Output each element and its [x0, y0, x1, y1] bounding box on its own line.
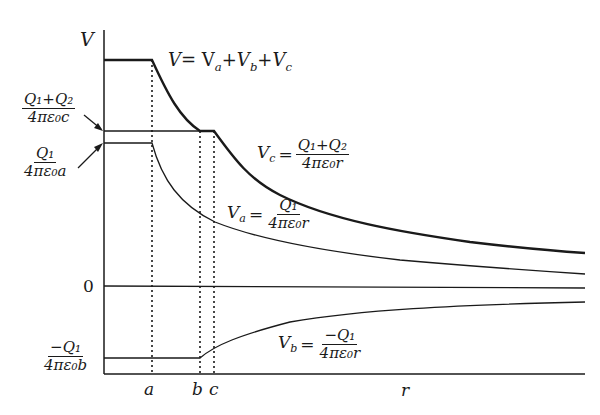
y-axis-label: V — [80, 30, 94, 49]
frac-den: 4πε₀c — [26, 109, 72, 125]
lhs: V — [227, 202, 239, 222]
tick-b: b — [192, 381, 203, 398]
lhs: V — [278, 332, 290, 352]
equals: = — [278, 146, 292, 163]
label-Va: Va = Q₁4πε₀r — [227, 198, 311, 231]
sub: c — [269, 153, 275, 166]
tick-a: a — [144, 381, 154, 398]
sub-a: a — [215, 60, 222, 74]
label-Vb: Vb = −Q₁4πε₀r — [278, 328, 362, 361]
lhs: V — [257, 142, 269, 162]
frac-den: 4πε₀r — [318, 345, 363, 361]
frac-den: 4πε₀a — [22, 163, 68, 179]
zero-line — [104, 286, 585, 288]
rhs: = V — [181, 49, 215, 70]
label-Vb-level: −Q₁4πε₀b — [42, 340, 89, 373]
frac-den: 4πε₀r — [300, 155, 345, 171]
frac-num: Q₁+Q₂ — [296, 138, 349, 155]
sub: b — [290, 343, 297, 356]
zero-label: 0 — [83, 278, 94, 295]
plus-c: +V — [257, 49, 285, 70]
equals: = — [249, 206, 263, 223]
label-Vc-level: Q₁+Q₂4πε₀c — [22, 92, 75, 125]
equals: = — [300, 336, 314, 353]
frac-num: −Q₁ — [48, 340, 83, 357]
label-total-V: V= Va+Vb+Vc — [168, 51, 292, 73]
label-Vc: Vc = Q₁+Q₂4πε₀r — [257, 138, 349, 171]
tick-c: c — [209, 381, 219, 398]
frac-num: Q₁+Q₂ — [22, 92, 75, 109]
plus-b: +V — [222, 49, 250, 70]
frac-den: 4πε₀b — [42, 357, 89, 373]
frac-num: −Q₁ — [322, 328, 357, 345]
lhs: V — [168, 49, 181, 70]
sub: a — [239, 213, 246, 226]
frac-num: Q₁ — [34, 146, 56, 163]
frac-num: Q₁ — [277, 198, 299, 215]
sub-c: c — [285, 60, 292, 74]
x-axis-label: r — [401, 382, 409, 399]
frac-den: 4πε₀r — [266, 215, 311, 231]
label-Va-level: Q₁4πε₀a — [22, 146, 68, 179]
